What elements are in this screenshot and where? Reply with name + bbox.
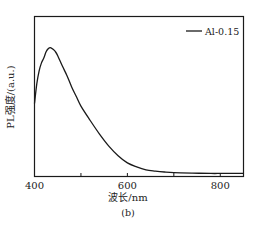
legend-label: Al-0.15 xyxy=(204,26,239,37)
legend: Al-0.15 xyxy=(186,26,239,37)
x-tick-label: 800 xyxy=(211,180,230,191)
y-axis-label: PL强度/(a.u.) xyxy=(4,65,16,128)
plot-frame xyxy=(35,17,244,177)
x-axis-label: 波长/nm xyxy=(108,191,148,203)
x-axis-tick-labels: 400600800 xyxy=(25,180,230,191)
figure-caption: (b) xyxy=(121,207,135,218)
series-line-al-0-15 xyxy=(35,48,244,174)
pl-spectrum-chart: 400600800 Al-0.15 PL强度/(a.u.) 波长/nm (b) xyxy=(0,0,257,229)
x-tick-label: 600 xyxy=(118,180,137,191)
x-tick-label: 400 xyxy=(25,180,44,191)
